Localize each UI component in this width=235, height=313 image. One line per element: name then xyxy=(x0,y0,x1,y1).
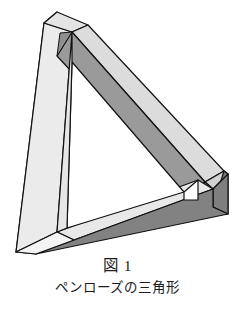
figure-caption: 図 1 ペンローズの三角形 xyxy=(0,258,235,294)
penrose-triangle-illustration xyxy=(0,0,235,258)
figure-caption-number: 図 1 xyxy=(0,258,235,281)
figure-caption-title: ペンローズの三角形 xyxy=(0,281,235,295)
figure-container: 図 1 ペンローズの三角形 xyxy=(0,0,235,313)
penrose-triangle-svg xyxy=(0,0,235,258)
